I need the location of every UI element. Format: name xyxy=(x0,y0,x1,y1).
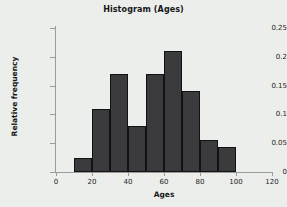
x-tick-label: 100 xyxy=(221,178,251,186)
x-tick-mark xyxy=(92,172,93,176)
y-tick-mark xyxy=(50,28,55,29)
y-axis-title: Relative frequency xyxy=(10,42,19,152)
plot-area xyxy=(56,28,272,172)
y-tick-mark xyxy=(50,86,55,87)
histogram-bar xyxy=(146,74,164,172)
histogram-bar xyxy=(92,109,110,172)
x-tick-mark xyxy=(164,172,165,176)
x-tick-label: 80 xyxy=(185,178,215,186)
x-tick-mark xyxy=(56,172,57,176)
x-tick-mark xyxy=(236,172,237,176)
x-axis-title: Ages xyxy=(56,190,272,199)
histogram-bar xyxy=(182,91,200,172)
x-tick-label: 120 xyxy=(257,178,287,186)
x-tick-mark xyxy=(272,172,273,176)
histogram-bar xyxy=(128,126,146,172)
x-tick-mark xyxy=(200,172,201,176)
histogram-bar xyxy=(74,158,92,172)
histogram-chart: Histogram (Ages) 00.050.10.150.20.25 020… xyxy=(0,0,287,207)
x-tick-label: 20 xyxy=(77,178,107,186)
histogram-bar xyxy=(164,51,182,172)
y-tick-mark xyxy=(50,114,55,115)
y-tick-mark xyxy=(50,143,55,144)
x-tick-label: 0 xyxy=(41,178,71,186)
x-tick-label: 60 xyxy=(149,178,179,186)
chart-title: Histogram (Ages) xyxy=(0,5,287,14)
histogram-bar xyxy=(200,140,218,172)
y-tick-mark xyxy=(50,57,55,58)
y-tick-mark xyxy=(50,172,55,173)
histogram-bar xyxy=(110,74,128,172)
x-tick-mark xyxy=(128,172,129,176)
histogram-bar xyxy=(218,147,236,172)
x-tick-label: 40 xyxy=(113,178,143,186)
